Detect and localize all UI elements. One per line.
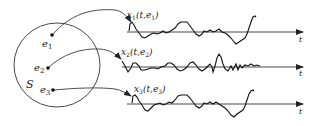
outcome-e3-label: e3 <box>40 84 50 97</box>
outcome-e2-label: e2 <box>34 62 44 75</box>
outcome-e1-label: e1 <box>42 38 52 51</box>
realization-3-label: x3(t,e3) <box>134 84 166 95</box>
mapping-arrow-e1 <box>53 10 131 34</box>
realization-2-label: x2(t,e2) <box>121 47 153 58</box>
sample-space-circle <box>14 23 100 107</box>
time-axis-1-label: t <box>299 35 303 44</box>
time-axis-2-label: t <box>299 69 303 78</box>
realization-1-label: x1(t,e1) <box>127 10 159 21</box>
mapping-arrow-e2 <box>49 49 121 67</box>
time-axis-3-label: t <box>299 107 303 116</box>
waveform-1 <box>129 16 256 44</box>
sample-space-label: S <box>26 78 34 91</box>
waveform-3 <box>132 90 254 117</box>
random-process-diagram: S e1 e2 e3 t x1(t,e1) t x2(t,e2) t x3(t,… <box>0 0 317 126</box>
